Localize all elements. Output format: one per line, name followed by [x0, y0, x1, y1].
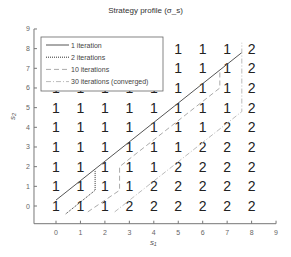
strategy-label: 1	[52, 139, 60, 155]
x-tick-label: 8	[250, 229, 254, 236]
x-tick-label: 4	[152, 229, 156, 236]
strategy-label: 1	[199, 100, 207, 116]
y-axis-label: s₂	[8, 113, 17, 120]
strategy-label: 1	[223, 80, 231, 96]
strategy-label: 1	[77, 198, 85, 214]
x-tick-label: 0	[54, 229, 58, 236]
y-tick-label: 5	[26, 104, 30, 111]
strategy-label: 1	[174, 119, 182, 135]
strategy-label: 2	[223, 139, 231, 155]
strategy-label: 1	[199, 119, 207, 135]
strategy-label: 1	[52, 159, 60, 175]
x-axis-label: s₁	[150, 238, 157, 247]
strategy-label: 1	[77, 159, 85, 175]
strategy-label: 1	[52, 119, 60, 135]
x-tick-label: 3	[127, 229, 131, 236]
strategy-label: 2	[248, 178, 256, 194]
chart-plot: 0123456789012345678911121112111111112111…	[0, 0, 291, 257]
strategy-label: 1	[125, 119, 133, 135]
strategy-label: 2	[248, 139, 256, 155]
y-tick-label: 8	[26, 45, 30, 52]
strategy-label: 2	[248, 80, 256, 96]
strategy-label: 1	[101, 178, 109, 194]
strategy-label: 1	[223, 41, 231, 57]
y-tick-label: 4	[26, 124, 30, 131]
strategy-label: 2	[223, 178, 231, 194]
strategy-label: 1	[125, 100, 133, 116]
strategy-label: 1	[150, 139, 158, 155]
y-tick-label: 2	[26, 163, 30, 170]
strategy-label: 2	[223, 119, 231, 135]
strategy-label: 1	[77, 139, 85, 155]
strategy-label: 1	[174, 100, 182, 116]
x-tick-label: 9	[274, 229, 278, 236]
y-tick-label: 1	[26, 183, 30, 190]
strategy-label: 2	[223, 198, 231, 214]
strategy-label: 2	[248, 159, 256, 175]
strategy-label: 1	[101, 139, 109, 155]
strategy-label: 1	[174, 41, 182, 57]
strategy-label: 2	[199, 178, 207, 194]
strategy-label: 2	[248, 100, 256, 116]
strategy-label: 2	[248, 119, 256, 135]
legend-entry: 10 iterations	[71, 66, 110, 73]
strategy-label: 1	[199, 41, 207, 57]
x-tick-label: 6	[201, 229, 205, 236]
y-tick-label: 0	[26, 203, 30, 210]
strategy-label: 1	[199, 80, 207, 96]
strategy-label: 2	[248, 41, 256, 57]
strategy-label: 1	[52, 100, 60, 116]
strategy-label: 2	[125, 198, 133, 214]
strategy-label: 2	[199, 198, 207, 214]
legend-entry: 1 iteration	[71, 42, 102, 49]
strategy-label: 2	[223, 159, 231, 175]
strategy-label: 2	[199, 139, 207, 155]
strategy-label: 2	[248, 198, 256, 214]
x-tick-label: 2	[103, 229, 107, 236]
strategy-label: 1	[101, 119, 109, 135]
x-tick-label: 1	[78, 229, 82, 236]
strategy-label: 1	[52, 178, 60, 194]
strategy-label: 1	[223, 100, 231, 116]
legend-entry: 30 iterations (converged)	[71, 78, 148, 86]
strategy-label: 1	[77, 100, 85, 116]
strategy-label: 2	[199, 159, 207, 175]
strategy-label: 1	[150, 119, 158, 135]
strategy-label: 1	[101, 100, 109, 116]
y-tick-label: 6	[26, 84, 30, 91]
x-tick-label: 7	[225, 229, 229, 236]
strategy-label: 2	[174, 178, 182, 194]
x-tick-label: 5	[176, 229, 180, 236]
strategy-label: 1	[199, 60, 207, 76]
y-tick-label: 9	[26, 25, 30, 32]
y-tick-label: 3	[26, 143, 30, 150]
strategy-label: 1	[125, 178, 133, 194]
strategy-label: 2	[248, 60, 256, 76]
y-tick-label: 7	[26, 65, 30, 72]
strategy-label: 1	[125, 159, 133, 175]
strategy-label: 1	[174, 60, 182, 76]
strategy-label: 1	[150, 159, 158, 175]
strategy-label: 1	[223, 60, 231, 76]
strategy-label: 1	[150, 100, 158, 116]
strategy-label: 2	[174, 198, 182, 214]
legend-entry: 2 iterations	[71, 54, 106, 61]
strategy-label: 1	[77, 119, 85, 135]
strategy-label: 1	[174, 139, 182, 155]
strategy-label: 2	[150, 198, 158, 214]
strategy-label: 1	[52, 198, 60, 214]
strategy-label: 1	[174, 80, 182, 96]
